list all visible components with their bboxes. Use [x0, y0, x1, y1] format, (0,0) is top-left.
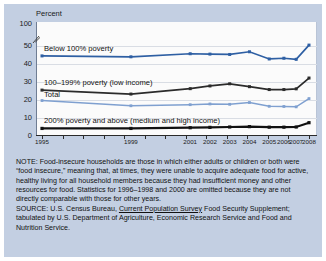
data-point-marker [295, 105, 298, 108]
data-point-marker [283, 105, 286, 108]
y-tick-label: 0 [28, 132, 32, 140]
y-tick-label: 10 [24, 114, 32, 122]
data-point-marker [282, 88, 285, 91]
data-point-marker [268, 126, 271, 129]
x-tick-label: 2007 [289, 139, 303, 145]
data-point-marker [307, 121, 310, 124]
chart-figure: Percent 10050403020100 19951999200120022… [0, 0, 326, 261]
y-tick-label: 40 [24, 60, 32, 68]
source-paragraph: SOURCE: U.S. Census Bureau, Current Popu… [16, 205, 312, 233]
data-point-marker [308, 97, 311, 100]
data-point-marker [189, 87, 192, 90]
note-paragraph: NOTE: Food-insecure households are those… [16, 158, 312, 205]
x-tick-label: 1995 [35, 139, 49, 145]
x-axis-tick [268, 136, 269, 139]
footnote-block: NOTE: Food-insecure households are those… [16, 158, 312, 233]
x-axis-tick [206, 136, 207, 139]
data-point-marker [228, 82, 231, 85]
y-axis-title: Percent [36, 10, 62, 18]
x-axis-tick [165, 136, 166, 139]
data-point-marker [228, 53, 231, 56]
data-point-marker [189, 126, 192, 129]
source-publication-title: Current Population Survey [119, 205, 202, 213]
data-point-marker [282, 126, 285, 129]
data-point-marker [248, 50, 251, 53]
x-tick-label: 2005 [262, 139, 276, 145]
data-point-marker [282, 57, 285, 60]
x-axis-tick [124, 136, 125, 139]
data-point-marker [41, 99, 44, 102]
data-point-marker [268, 105, 271, 108]
data-point-marker [41, 54, 44, 57]
data-point-marker [40, 127, 43, 130]
x-axis-tick [186, 136, 187, 139]
data-point-marker [308, 77, 311, 80]
series-label-200-poverty-and-above: 200% poverty and above (medium and high … [44, 117, 220, 125]
data-point-marker [268, 88, 271, 91]
x-axis-tick [247, 136, 248, 139]
data-point-marker [295, 87, 298, 90]
x-tick-label: 2003 [223, 139, 237, 145]
y-tick-label: 30 [24, 78, 32, 86]
x-axis-tick [145, 136, 146, 139]
data-point-marker [308, 44, 311, 47]
series-label-100-199-poverty: 100–199% poverty (low income) [44, 79, 152, 87]
data-point-marker [295, 58, 298, 61]
x-axis-tick [83, 136, 84, 139]
data-point-marker [189, 52, 192, 55]
data-point-marker [129, 127, 132, 130]
x-axis-tick [309, 136, 310, 139]
data-point-marker [228, 125, 231, 128]
data-point-marker [248, 101, 251, 104]
data-point-marker [209, 103, 212, 106]
data-point-marker [208, 53, 211, 56]
y-tick-label: 20 [24, 96, 32, 104]
x-axis-tick [104, 136, 105, 139]
data-point-marker [129, 93, 132, 96]
series-2 [41, 97, 311, 108]
data-point-marker [189, 103, 192, 106]
series-label-below-100-poverty: Below 100% poverty [44, 45, 113, 53]
data-point-marker [228, 103, 231, 106]
x-tick-label: 2004 [243, 139, 257, 145]
data-point-marker [295, 125, 298, 128]
data-point-marker [208, 84, 211, 87]
x-axis-tick [42, 136, 43, 139]
x-axis-tick [227, 136, 228, 139]
data-point-marker [208, 126, 211, 129]
x-tick-label: 2008 [302, 139, 316, 145]
y-tick-label: 50 [24, 42, 32, 50]
data-point-marker [129, 55, 132, 58]
y-tick-label: 100 [19, 20, 32, 28]
data-point-marker [248, 85, 251, 88]
x-tick-label: 2002 [203, 139, 217, 145]
plot-area: 10050403020100 1995199920012002200320042… [36, 22, 317, 136]
data-point-marker [130, 104, 133, 107]
data-point-marker [248, 125, 251, 128]
x-axis-tick [63, 136, 64, 139]
source-prefix: SOURCE: U.S. Census Bureau, [16, 205, 119, 213]
x-tick-label: 2001 [183, 139, 197, 145]
x-axis-tick [288, 136, 289, 139]
data-point-marker [268, 57, 271, 60]
x-tick-label: 1999 [124, 139, 138, 145]
series-label-total: Total [44, 91, 60, 99]
